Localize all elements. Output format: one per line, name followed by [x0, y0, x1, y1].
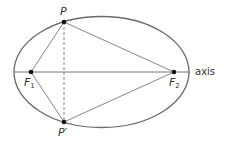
label-p-prime: P′	[58, 126, 68, 139]
ellipse-diagram: P P′ F1 F2 axis	[0, 0, 228, 141]
segment-f1-p	[31, 22, 64, 72]
point-p	[62, 20, 67, 25]
label-f1-sub: 1	[30, 82, 34, 90]
point-f2	[172, 70, 177, 75]
axis-label: axis	[195, 66, 215, 77]
point-f1	[29, 70, 34, 75]
label-f2: F2	[169, 76, 180, 90]
label-f2-sub: 2	[175, 82, 179, 90]
label-p: P	[60, 5, 67, 18]
segment-f1-pprime	[31, 72, 64, 122]
ellipse-diagram-svg: P P′ F1 F2 axis	[0, 0, 228, 141]
label-f1: F1	[24, 76, 35, 90]
point-p-prime	[62, 120, 67, 125]
